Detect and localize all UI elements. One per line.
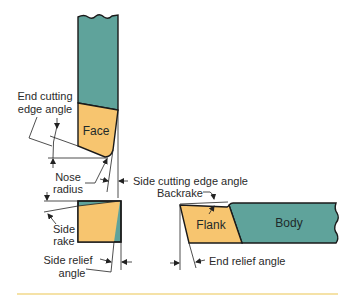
side-cutting-edge-angle-label: Side cutting edge angle [133,175,248,187]
nose-radius-label-1: Nose [55,171,81,183]
end-cutting-edge-angle-label-2: edge angle [18,103,72,115]
end-relief-line [189,243,196,268]
side-view: Flank Body Backrake End relief angle [157,187,338,270]
end-relief-angle-label: End relief angle [209,255,285,267]
cutting-tool-geometry-diagram: Face End cutting edge angle Nose radius … [0,0,355,299]
flank-label: Flank [196,218,226,232]
end-cutting-angle-arc [53,126,57,158]
body-label: Body [275,216,302,230]
nose-radius-label-2: radius [53,183,83,195]
arrow-icon [100,259,111,262]
side-rake-label-2: rake [53,235,74,247]
face-label: Face [83,124,110,138]
end-view: Side rake Side relief angle [44,192,132,279]
side-relief-angle-label-1: Side relief [44,254,94,266]
side-relief-leader [86,269,111,272]
backrake-label: Backrake [157,187,203,199]
end-view-tip [78,201,120,242]
top-view: Face End cutting edge angle Nose radius … [17,15,248,198]
side-rake-label-1: Side [53,223,75,235]
side-rake-line [44,206,78,212]
side-relief-line [111,242,114,272]
arrow-icon [196,260,205,262]
nose-radius-leader [85,159,107,183]
shank-top-view [78,15,118,110]
end-cutting-edge-angle-label-1: End cutting [17,90,72,102]
backrake-reference-line [180,202,228,204]
arrow-icon [100,179,108,181]
side-relief-angle-label-2: angle [59,267,86,279]
backrake-leader [203,192,214,199]
end-cutting-leader [29,117,52,146]
